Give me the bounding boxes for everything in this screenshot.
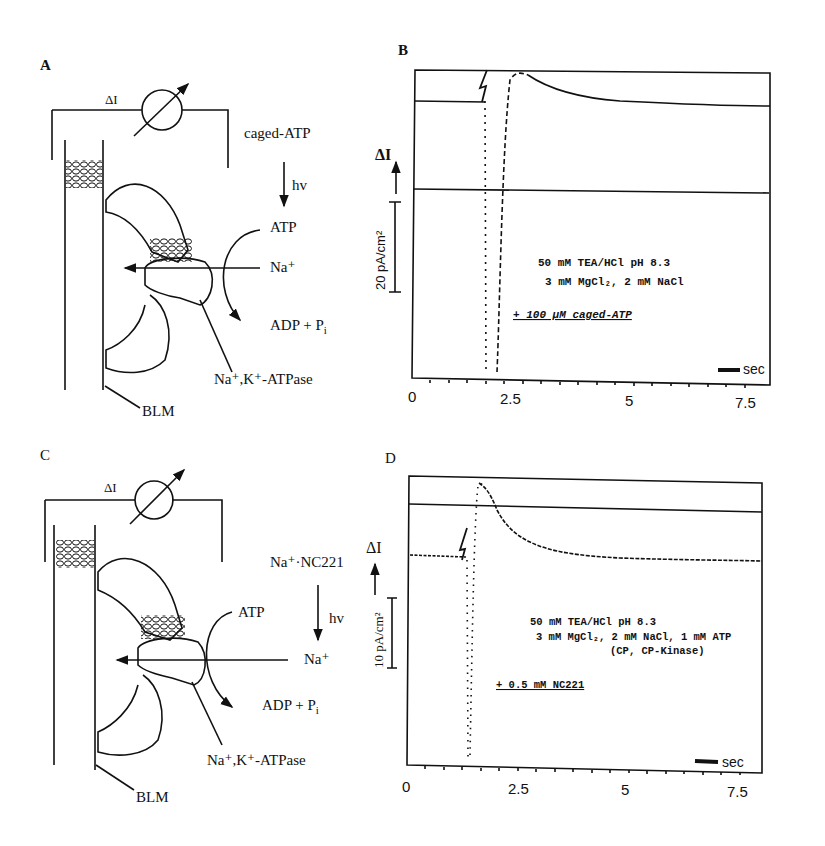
y-axis-label: ΔI <box>366 539 382 556</box>
condition-line-2: 3 mM MgCl₂, 2 mM NaCl, 1 mM ATP <box>536 631 731 643</box>
caged-na-label: Na⁺·NC221 <box>270 554 344 570</box>
x-tick: 5 <box>625 392 633 409</box>
panel-label-a: A <box>40 57 51 73</box>
condition-line-2: 3 mM MgCl₂, 2 mM NaCl <box>545 276 684 288</box>
atp-label: ATP <box>238 604 265 620</box>
scale-bar-label: 10 pA/cm² <box>371 612 386 668</box>
x-axis-arrow-icon <box>695 761 718 762</box>
enzyme-label: Na⁺,K⁺-ATPase <box>214 371 313 387</box>
x-tick: 7.5 <box>735 394 756 411</box>
addition-label: + 100 μM caged-ATP <box>513 309 632 321</box>
blm-label: BLM <box>142 403 175 419</box>
panel-label-d: D <box>385 450 396 466</box>
na-label: Na⁺ <box>270 259 295 275</box>
condition-line-1: 50 mM TEA/HCl pH 8.3 <box>538 257 670 269</box>
enzyme-label: Na⁺,K⁺-ATPase <box>207 752 306 768</box>
panel-d-labels: D ΔI 10 pA/cm² 50 mM TEA/HCl pH 8.3 3 mM… <box>366 450 748 800</box>
hv-label: hv <box>292 177 308 193</box>
figure: A ΔI caged-ATP hv ATP Na⁺ ADP + Pi Na⁺,K… <box>0 0 825 846</box>
x-tick: 5 <box>621 781 629 798</box>
x-tick: 2.5 <box>508 780 529 797</box>
y-axis-label: ΔI <box>375 146 391 163</box>
lipid-bilayer-icon <box>56 540 94 568</box>
x-tick: 0 <box>402 778 410 795</box>
panel-label-b: B <box>398 42 408 58</box>
x-unit-label: sec <box>743 361 765 377</box>
hv-label: hv <box>329 610 345 626</box>
scale-bar-label: 20 pA/cm² <box>373 230 388 290</box>
addition-label: + 0.5 mM NC221 <box>496 679 584 691</box>
x-tick: 0 <box>408 388 416 405</box>
panel-c-schematic <box>45 470 318 790</box>
blm-label: BLM <box>136 789 169 805</box>
delta-i-label: ΔI <box>104 480 117 495</box>
x-unit-label: sec <box>722 754 744 770</box>
caged-atp-label: caged-ATP <box>244 125 311 141</box>
atp-label: ATP <box>270 219 297 235</box>
panel-label-c: C <box>40 447 50 463</box>
lipid-bilayer-icon <box>66 160 102 188</box>
delta-i-label: ΔI <box>105 92 118 107</box>
condition-line-1: 50 mM TEA/HCl pH 8.3 <box>530 616 656 628</box>
x-tick: 7.5 <box>727 783 748 800</box>
condition-line-3: (CP, CP-Kinase) <box>610 645 705 657</box>
x-tick: 2.5 <box>500 390 521 407</box>
panel-b-labels: B ΔI 20 pA/cm² 50 mM TEA/HCl pH 8.3 3 mM… <box>373 42 765 411</box>
adp-label: ADP + Pi <box>262 697 319 716</box>
panel-b-chart <box>389 70 770 388</box>
na-label: Na⁺ <box>304 651 329 667</box>
adp-label: ADP + Pi <box>270 317 327 336</box>
